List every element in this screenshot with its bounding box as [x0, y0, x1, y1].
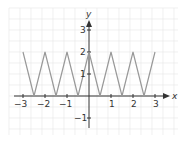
x-tick-label: −1	[59, 99, 72, 109]
y-arrow-icon	[86, 20, 92, 27]
y-tick-label: 1	[80, 69, 86, 79]
x-tick-label: −2	[37, 99, 50, 109]
x-tick-label: 1	[109, 99, 115, 109]
x-arrow-icon	[163, 93, 170, 99]
x-tick-label: 2	[131, 99, 137, 109]
y-axis-label: y	[85, 9, 92, 19]
y-tick-label: 2	[80, 47, 86, 57]
y-tick-label: 3	[80, 25, 86, 35]
x-tick-label: −3	[14, 99, 27, 109]
chart: x y −3 −2 −1 1 2 3 3 2 1 −1	[0, 0, 186, 142]
x-axis-label: x	[171, 91, 178, 101]
x-tick-label: 3	[153, 99, 159, 109]
y-tick-label: −1	[74, 113, 87, 123]
